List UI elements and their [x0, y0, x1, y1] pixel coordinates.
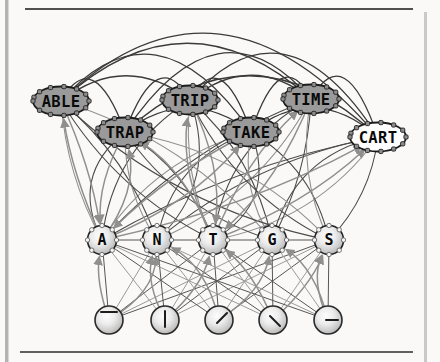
letter-knob — [327, 252, 331, 256]
letter-knob — [85, 238, 89, 242]
word-label: ABLE — [42, 93, 81, 111]
word-word-inhibition-edge — [125, 53, 311, 132]
inhibitory-knob — [274, 123, 278, 127]
letter-word-edge — [61, 101, 102, 240]
inhibitory-knob — [126, 144, 130, 148]
inhibitory-knob — [84, 92, 88, 96]
letter-knob — [337, 228, 341, 232]
letter-knob — [221, 228, 225, 232]
inhibitory-knob — [238, 143, 242, 147]
letter-knob — [155, 223, 159, 227]
inhibitory-knob — [298, 83, 302, 87]
inhibitory-knob — [365, 148, 369, 152]
letter-knob — [255, 238, 259, 242]
letter-to-word-arrow — [186, 119, 213, 240]
word-node-able: ABLE — [31, 84, 91, 117]
letter-label: G — [267, 231, 276, 249]
letter-knob — [145, 228, 149, 232]
inhibitory-knob — [204, 86, 208, 90]
inhibitory-knob — [298, 110, 302, 114]
inhibitory-knob — [213, 91, 217, 95]
inhibitory-knob — [392, 123, 396, 127]
inhibitory-knob — [75, 111, 79, 115]
inhibitory-knob — [148, 123, 152, 127]
inhibitory-knob — [365, 121, 369, 125]
feature-node-diagonal-rising — [205, 306, 233, 334]
inhibitory-knob — [401, 142, 405, 146]
word-label: TAKE — [232, 124, 271, 142]
letter-knob — [280, 228, 284, 232]
inhibitory-knob — [204, 110, 208, 114]
inhibitory-knob — [334, 104, 338, 108]
letter-knob — [341, 238, 345, 242]
inhibitory-knob — [151, 130, 155, 134]
inhibitory-knob — [265, 142, 269, 146]
letter-knob — [155, 252, 159, 256]
inhibitory-knob — [48, 85, 52, 89]
inhibitory-knob — [139, 118, 143, 122]
letter-knob — [270, 252, 274, 256]
letter-node-g: G — [255, 223, 288, 256]
inhibitory-knob — [312, 82, 316, 86]
word-label: CART — [359, 129, 398, 147]
connection-edges — [61, 33, 378, 320]
letter-knob — [211, 252, 215, 256]
inhibitory-knob — [274, 137, 278, 141]
word-to-letter-arrow — [190, 100, 217, 223]
inhibitory-knob — [325, 85, 329, 89]
letter-knob — [280, 248, 284, 252]
letter-knob — [317, 248, 321, 252]
inhibitory-knob — [213, 105, 217, 109]
letter-node-n: N — [140, 223, 173, 256]
letter-node-s: S — [312, 223, 345, 256]
letter-knob — [317, 228, 321, 232]
feature-node-horizontal-bar-top — [95, 306, 123, 334]
inhibitory-knob — [348, 135, 352, 139]
letter-word-edge — [157, 100, 199, 240]
scanned-figure-page: ABLETRAPTRIPTAKETIMECARTANTGS — [0, 0, 440, 362]
letter-label: S — [324, 231, 333, 249]
inhibitory-knob — [148, 137, 152, 141]
letter-knob — [196, 238, 200, 242]
letter-knob — [100, 223, 104, 227]
inhibitory-knob — [252, 115, 256, 119]
inhibitory-knob — [191, 112, 195, 116]
word-label: TRAP — [106, 124, 145, 142]
inhibitory-knob — [401, 128, 405, 132]
letter-node-a: A — [85, 223, 118, 256]
feature-node-diagonal-falling — [259, 306, 287, 334]
inhibitory-knob — [48, 112, 52, 116]
letter-knob — [165, 228, 169, 232]
letter-knob — [90, 248, 94, 252]
inhibitory-knob — [31, 99, 35, 103]
inhibitory-knob — [221, 130, 225, 134]
interactive-activation-network-diagram: ABLETRAPTRIPTAKETIMECARTANTGS — [0, 0, 440, 362]
letter-knob — [100, 252, 104, 256]
letter-knob — [169, 238, 173, 242]
letter-knob — [201, 248, 205, 252]
inhibitory-knob — [62, 84, 66, 88]
letter-knob — [90, 228, 94, 232]
letter-label: N — [152, 231, 161, 249]
inhibitory-knob — [312, 111, 316, 115]
inhibitory-knob — [392, 147, 396, 151]
letter-knob — [211, 223, 215, 227]
inhibitory-knob — [379, 149, 383, 153]
inhibitory-knob — [160, 98, 164, 102]
feature-node-horizontal-bar-right — [314, 306, 342, 334]
right-page-margin-bar — [424, 12, 427, 362]
letter-knob — [225, 238, 229, 242]
letter-knob — [145, 248, 149, 252]
inhibitory-knob — [112, 116, 116, 120]
letter-knob — [165, 248, 169, 252]
word-label: TIME — [292, 91, 331, 109]
letter-knob — [270, 223, 274, 227]
inhibitory-knob — [87, 99, 91, 103]
inhibitory-knob — [325, 109, 329, 113]
inhibitory-knob — [75, 87, 79, 91]
letter-node-t: T — [196, 223, 229, 256]
word-label: TRIP — [171, 92, 210, 110]
inhibitory-knob — [277, 130, 281, 134]
inhibitory-knob — [177, 111, 181, 115]
inhibitory-knob — [139, 142, 143, 146]
